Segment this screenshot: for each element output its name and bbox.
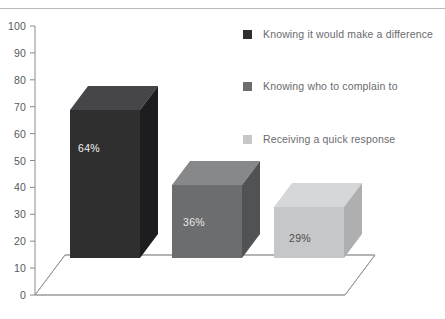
- floor-plane: [35, 255, 375, 295]
- y-tick-label-10: 10: [0, 263, 26, 273]
- legend-swatch-icon-2: [243, 135, 252, 144]
- y-tick-label-80: 80: [0, 75, 26, 85]
- bar-1-side-face: [140, 86, 158, 258]
- y-tick-label-50: 50: [0, 156, 26, 166]
- bar-1-front-face: [70, 110, 140, 258]
- bar-1-data-label: 64%: [78, 142, 100, 154]
- bar-series-3: [274, 183, 362, 258]
- y-tick-label-30: 30: [0, 209, 26, 219]
- chart-plot-area: [0, 0, 445, 319]
- y-tick-label-70: 70: [0, 102, 26, 112]
- y-tick-label-60: 60: [0, 129, 26, 139]
- legend-swatch-icon-0: [243, 30, 252, 39]
- legend-label-1: Knowing who to complain to: [263, 80, 398, 92]
- y-tick-label-0: 0: [0, 290, 26, 300]
- y-tick-label-20: 20: [0, 236, 26, 246]
- bar-3-data-label: 29%: [289, 232, 311, 244]
- y-tick-label-100: 100: [0, 21, 26, 31]
- y-tick-label-40: 40: [0, 182, 26, 192]
- y-tick-label-90: 90: [0, 48, 26, 58]
- bar-2-data-label: 36%: [183, 216, 205, 228]
- legend-item-0[interactable]: Knowing it would make a difference: [243, 28, 433, 40]
- legend-swatch-icon-1: [243, 82, 252, 91]
- bar-series-2: [172, 161, 260, 258]
- legend-item-2[interactable]: Receiving a quick response: [243, 133, 395, 145]
- y-axis-ticks: [30, 26, 35, 295]
- legend-item-1[interactable]: Knowing who to complain to: [243, 80, 398, 92]
- bar-series-1: [70, 86, 158, 258]
- legend-label-0: Knowing it would make a difference: [263, 28, 433, 40]
- bar-chart-figure: 100 90 80 70 60 50 40 30 20 10 0 64% 36%…: [0, 0, 445, 319]
- legend-label-2: Receiving a quick response: [263, 133, 395, 145]
